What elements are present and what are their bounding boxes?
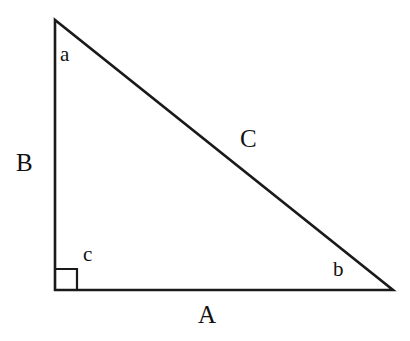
angle-label-c: c [83, 244, 92, 265]
angle-label-a: a [60, 44, 69, 65]
side-label-a-horizontal: A [198, 302, 216, 327]
side-label-c-hypotenuse: C [240, 126, 257, 151]
angle-label-b: b [333, 259, 344, 280]
side-label-b-vertical: B [16, 150, 33, 175]
triangle-outline [55, 20, 393, 290]
right-triangle-diagram: a B C c b A [0, 0, 410, 341]
right-angle-square-icon [56, 269, 77, 290]
